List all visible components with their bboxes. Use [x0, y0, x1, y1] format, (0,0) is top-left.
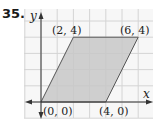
coordinate-plane: yx(0, 0)(4, 0)(6, 4)(2, 4): [0, 0, 155, 128]
y-axis-label: y: [29, 9, 37, 23]
point-label: (6, 4): [120, 24, 150, 37]
point-label: (2, 4): [52, 24, 82, 37]
point-label: (4, 0): [99, 105, 129, 118]
x-axis-label: x: [143, 87, 150, 101]
point-label: (0, 0): [43, 105, 73, 118]
